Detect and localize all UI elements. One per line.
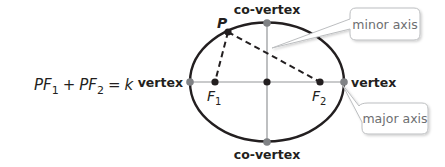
- vertex-left-label: vertex: [138, 75, 183, 90]
- vertex-left-dot: [186, 78, 194, 86]
- focus-1-label: F1: [207, 88, 221, 107]
- major-axis-callout: [342, 84, 428, 134]
- focus-2-dot: [316, 78, 323, 85]
- covertex-bottom-dot: [263, 138, 271, 146]
- minor-axis-label: minor axis: [352, 17, 417, 32]
- vertex-right-label: vertex: [351, 75, 396, 90]
- covertex-top-label: co-vertex: [234, 2, 301, 17]
- focus-2-label: F2: [312, 88, 326, 107]
- segment-pf1: [215, 32, 228, 82]
- focus-1-dot: [211, 78, 218, 85]
- center-dot: [263, 78, 270, 85]
- major-axis-label: major axis: [362, 111, 427, 126]
- vertex-right-dot: [340, 78, 348, 86]
- covertex-bottom-label: co-vertex: [234, 147, 301, 162]
- covertex-top-dot: [263, 19, 271, 27]
- point-p-label: P: [217, 15, 228, 31]
- focal-sum-equation: PF1+PF2=k: [34, 76, 135, 97]
- ellipse-diagram: PF1+PF2=k minor axis major axis P F1 F2 …: [0, 0, 445, 167]
